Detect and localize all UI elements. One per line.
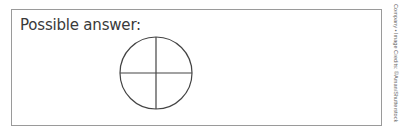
image-credit-text: Company • Image Credits: ©Aman/Shutterst… <box>393 4 399 122</box>
answer-label: Possible answer: <box>20 16 141 34</box>
image-credit: Company • Image Credits: ©Aman/Shutterst… <box>389 4 399 129</box>
circle-fourths-diagram <box>118 35 194 111</box>
answer-box: Possible answer: <box>11 9 382 126</box>
